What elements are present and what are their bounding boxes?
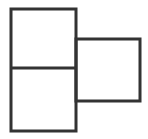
geometric-figure-canvas — [0, 0, 148, 139]
left-tall-rectangle — [11, 9, 76, 131]
figure-svg — [0, 0, 148, 139]
right-square — [76, 39, 140, 101]
